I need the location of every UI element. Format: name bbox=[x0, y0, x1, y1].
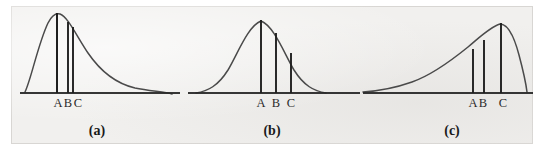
panel-b-label-C: C bbox=[287, 97, 296, 110]
panel-b-label-A: A bbox=[256, 97, 265, 110]
panel-b-caption: (b) bbox=[263, 124, 280, 138]
panel-a-curve bbox=[25, 14, 172, 94]
panel-c-label-A: A bbox=[468, 97, 477, 110]
panel-a-group bbox=[20, 13, 180, 94]
panel-c-label-C: C bbox=[499, 97, 508, 110]
panel-c-label-B: B bbox=[479, 97, 488, 110]
panel-a-label-C: C bbox=[74, 97, 83, 110]
panel-c-curve bbox=[363, 24, 527, 92]
panel-b-label-B: B bbox=[272, 97, 281, 110]
panel-a-caption: (a) bbox=[89, 124, 105, 138]
panel-a-label-B: B bbox=[64, 97, 73, 110]
panel-a-label-A: A bbox=[53, 97, 62, 110]
panel-c-group bbox=[363, 23, 533, 93]
panel-c-caption: (c) bbox=[444, 124, 460, 138]
figure-root: A B C A B C A B C (a) (b) (c) bbox=[0, 0, 547, 151]
panel-b-group bbox=[188, 20, 360, 93]
